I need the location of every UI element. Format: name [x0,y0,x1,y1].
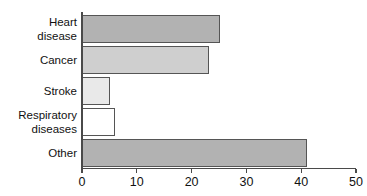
category-label: Stroke [44,85,77,97]
x-tick-label: 20 [185,175,199,189]
x-tick-label: 10 [130,175,144,189]
bar [82,47,208,74]
bar [82,140,307,167]
category-label: Heart [49,16,78,28]
bar [82,16,219,43]
bar [82,78,109,105]
category-label: Respiratory [18,109,77,121]
bar [82,109,115,136]
bars-group [82,16,307,167]
category-labels: HeartdiseaseCancerStrokeRespiratorydisea… [18,16,78,159]
category-label: disease [37,30,77,42]
x-tick-label: 30 [239,175,253,189]
x-tick-label: 50 [349,175,363,189]
bar-chart: 01020304050 HeartdiseaseCancerStrokeResp… [0,0,367,196]
category-label: diseases [32,123,78,135]
x-tick-label: 40 [294,175,308,189]
chart-canvas: 01020304050 HeartdiseaseCancerStrokeResp… [0,0,367,196]
category-label: Cancer [40,54,77,66]
x-tick-label: 0 [79,175,86,189]
x-axis-tick-labels: 01020304050 [79,175,363,189]
category-label: Other [48,147,77,159]
